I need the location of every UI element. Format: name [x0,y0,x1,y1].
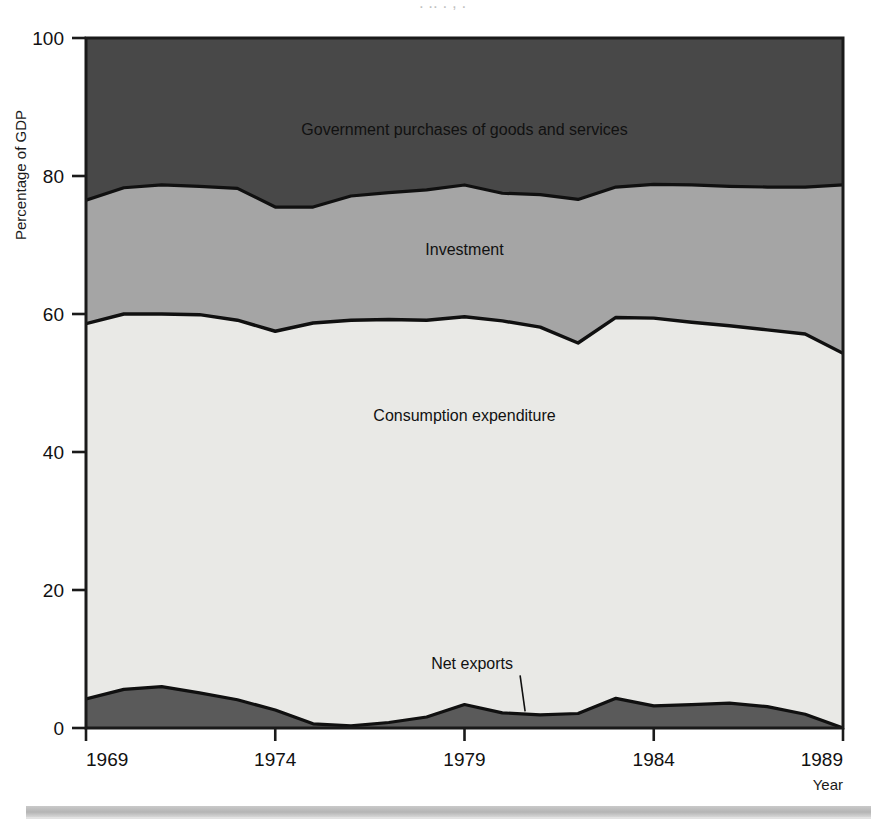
y-tick-label-20: 20 [43,580,64,601]
x-axis-title: Year [813,776,843,793]
chart-canvas: 020406080100 19691974197919841989 Percen… [0,0,885,819]
area-label-consumption: Consumption expenditure [373,407,555,424]
x-tick-label-1969: 1969 [86,749,128,770]
figure-bottom-rule [26,806,871,817]
y-axis-title: Percentage of GDP [12,110,29,240]
y-tick-label-80: 80 [43,166,64,187]
x-tick-label-1989: 1989 [801,749,843,770]
stacked-areas [86,38,843,728]
area-label-government: Government purchases of goods and servic… [301,121,627,138]
x-tick-label-1974: 1974 [254,749,297,770]
y-axis-ticks: 020406080100 [32,28,86,739]
x-tick-label-1979: 1979 [443,749,485,770]
y-tick-label-0: 0 [53,718,64,739]
area-label-investment: Investment [425,241,504,258]
y-tick-label-60: 60 [43,304,64,325]
y-tick-label-40: 40 [43,442,64,463]
x-axis-ticks: 19691974197919841989 [86,728,843,770]
y-tick-label-100: 100 [32,28,64,49]
x-tick-label-1984: 1984 [633,749,676,770]
figure-area-chart: 020406080100 19691974197919841989 Percen… [0,0,885,819]
area-label-net-exports: Net exports [431,655,513,672]
